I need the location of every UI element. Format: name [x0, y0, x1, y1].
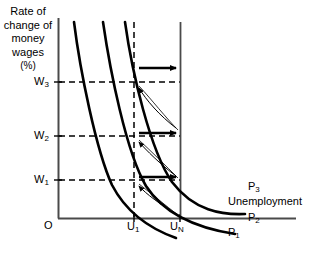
- phillips-curve-diagram: Rate of change of money wages (%) W3 W2 …: [0, 0, 328, 255]
- trace-p1: [139, 184, 178, 215]
- curve-label-p1: P1: [228, 226, 240, 240]
- y-axis-title-units: (%): [0, 59, 56, 73]
- y-axis-title: Rate of change of money wages (%): [0, 5, 56, 73]
- trace-p3: [139, 86, 178, 130]
- x-axis-label: Unemployment: [228, 195, 302, 208]
- y-axis-title-line-4: wages: [0, 46, 56, 60]
- y-axis-title-line-3: money: [0, 32, 56, 46]
- curve-label-p3-sub: 3: [255, 185, 259, 194]
- trace-p2: [139, 140, 178, 178]
- y-tick-label-w3-sub: 3: [44, 80, 48, 89]
- y-axis-title-line-1: Rate of: [0, 5, 56, 19]
- y-tick-label-w1-sub: 1: [44, 178, 48, 187]
- y-tick-label-w3: W3: [34, 75, 49, 89]
- curve-label-p2-sub: 2: [255, 216, 259, 225]
- y-tick-label-w2-sub: 2: [44, 134, 48, 143]
- x-tick-label-u1-sub: 1: [135, 225, 139, 234]
- y-axis-title-line-2: change of: [0, 19, 56, 33]
- y-tick-label-w1-base: W: [34, 173, 44, 185]
- x-tick-label-u1-base: U: [127, 220, 135, 232]
- curve-label-p3: P3: [248, 180, 260, 194]
- phillips-curves: [74, 22, 245, 238]
- x-tick-label-un-base: U: [170, 220, 178, 232]
- x-tick-label-u1: U1: [127, 220, 139, 234]
- x-tick-label-un-sub: N: [178, 225, 184, 234]
- x-tick-label-un: UN: [170, 220, 184, 234]
- curve-label-p2: P2: [248, 211, 260, 225]
- y-tick-label-w2: W2: [34, 129, 49, 143]
- y-tick-label-w2-base: W: [34, 129, 44, 141]
- y-tick-label-w3-base: W: [34, 75, 44, 87]
- curve-trace-lines: [139, 86, 178, 215]
- curve-p3: [125, 22, 245, 214]
- y-tick-label-w1: W1: [34, 173, 49, 187]
- origin-label: O: [44, 219, 53, 232]
- curve-label-p1-sub: 1: [235, 231, 239, 240]
